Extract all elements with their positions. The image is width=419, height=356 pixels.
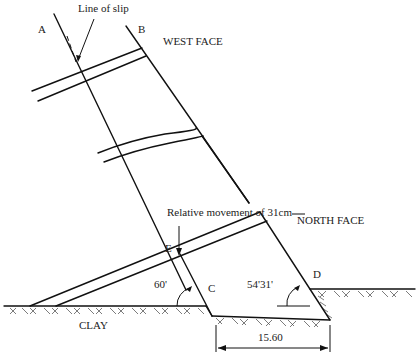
angle-d-label: 54'31': [247, 278, 273, 290]
point-a-label: A: [38, 23, 46, 35]
north-face-edge: [260, 212, 330, 320]
dim-arrow-left: [218, 345, 226, 351]
point-c-label: C: [208, 282, 215, 294]
point-b-label: B: [138, 23, 145, 35]
tower-right-edge-lower: [202, 136, 249, 203]
lower-band-lower: [56, 221, 267, 306]
relative-movement-label: Relative movement of 31cm: [167, 206, 292, 218]
line-of-slip-arrow: [78, 19, 94, 60]
angle-arc-d-arrowhead: [294, 285, 300, 291]
north-face-label: NORTH FACE: [297, 214, 365, 226]
diagram-svg: Line of slip A B WEST FACE Relative move…: [0, 0, 419, 356]
angle-c-label: 60': [154, 278, 167, 290]
ground-hatching: [10, 291, 412, 327]
diagram-canvas: Line of slip A B WEST FACE Relative move…: [0, 0, 419, 356]
angle-arc-d: [287, 287, 298, 306]
dimension-label: 15.60: [258, 331, 283, 343]
angle-arc-c: [177, 288, 190, 306]
clay-label: CLAY: [79, 319, 108, 331]
line-of-slip-label: Line of slip: [78, 2, 129, 14]
trench-bottom: [212, 316, 330, 320]
point-d-label: D: [313, 268, 321, 280]
lower-band-upper: [30, 212, 260, 306]
dim-arrow-right: [320, 345, 328, 351]
west-face-label: WEST FACE: [163, 35, 223, 47]
point-e-label: E: [165, 242, 172, 254]
angle-arc-c-arrowhead: [186, 286, 192, 292]
